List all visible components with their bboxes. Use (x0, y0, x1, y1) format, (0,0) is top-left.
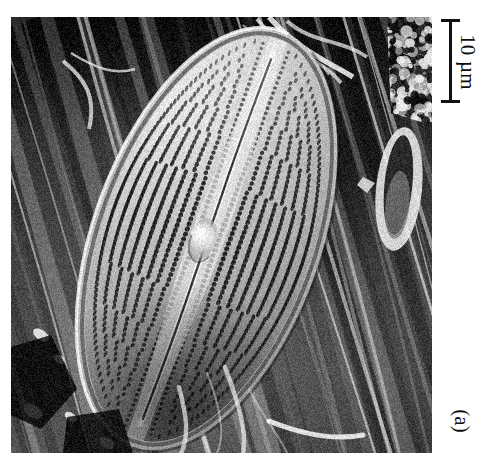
panel-label-text: (a) (451, 409, 472, 432)
figure-root: 10 µm (a) (0, 0, 484, 457)
sem-image-canvas (11, 17, 432, 453)
scale-bar-label: 10 µm (455, 16, 479, 108)
scale-bar-label-text: 10 µm (457, 34, 478, 90)
panel-label: (a) (446, 393, 476, 449)
scale-bar-stem (449, 21, 452, 101)
sem-micrograph (11, 17, 432, 453)
